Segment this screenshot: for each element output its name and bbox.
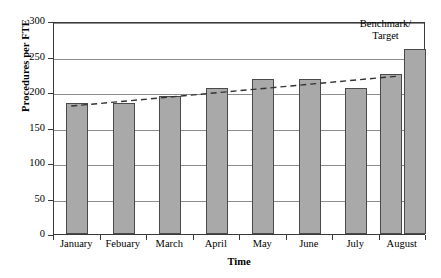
x-axis-title: Time (53, 256, 425, 267)
y-tick-label: 300 (5, 15, 45, 26)
benchmark-target-line2: Target (338, 30, 433, 42)
trend-line (54, 23, 426, 236)
y-tick-mark (48, 200, 53, 201)
x-category-label: Febuary (100, 238, 147, 249)
chart-figure: Procedures per FTE 050100150200250300 Ja… (0, 0, 441, 278)
benchmark-target-line1: Benchmark/ (338, 18, 433, 30)
plot-area (53, 22, 425, 235)
x-category-label: June (286, 238, 333, 249)
trend-line-segment (71, 76, 397, 106)
x-category-label: July (332, 238, 379, 249)
x-category-label: March (146, 238, 193, 249)
x-tick-mark (425, 235, 426, 240)
y-tick-mark (48, 58, 53, 59)
x-category-label: August (379, 238, 426, 249)
y-tick-mark (48, 22, 53, 23)
y-tick-label: 100 (5, 157, 45, 168)
y-tick-mark (48, 93, 53, 94)
benchmark-target-annotation: Benchmark/ Target (338, 18, 433, 42)
x-category-label: April (193, 238, 240, 249)
x-category-label: January (53, 238, 100, 249)
y-tick-mark (48, 164, 53, 165)
y-tick-label: 50 (5, 193, 45, 204)
y-tick-label: 150 (5, 122, 45, 133)
x-category-label: May (239, 238, 286, 249)
y-tick-label: 200 (5, 86, 45, 97)
y-tick-label: 250 (5, 51, 45, 62)
y-tick-label: 0 (5, 228, 45, 239)
y-tick-mark (48, 129, 53, 130)
